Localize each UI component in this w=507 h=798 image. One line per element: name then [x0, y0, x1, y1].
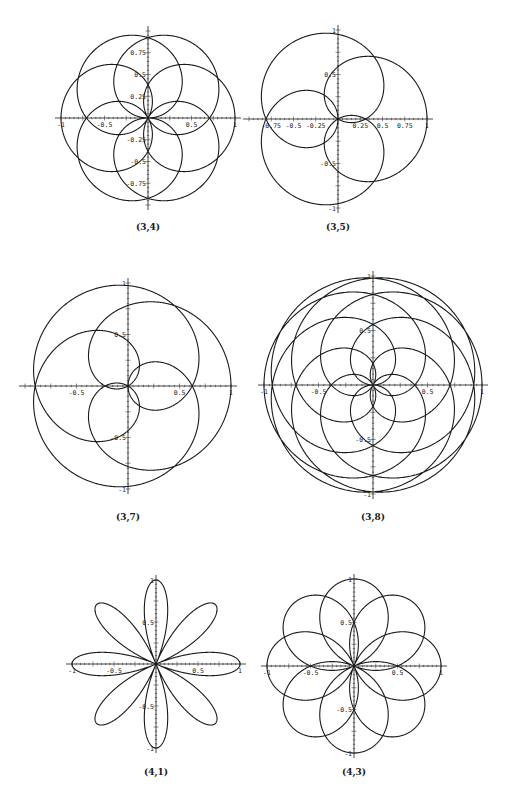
- plot-caption: (4,3): [342, 767, 366, 777]
- y-tick-label: -0.75: [126, 180, 146, 188]
- y-tick-label: -0.5: [130, 158, 146, 166]
- x-tick-label: -0.5: [69, 389, 85, 397]
- y-tick-label: 1: [367, 273, 371, 281]
- y-tick-label: 0.5: [340, 619, 352, 627]
- x-tick-label: -0.5: [303, 669, 319, 677]
- plot-43: -1-0.50.5110.5-0.5-1: [261, 574, 447, 758]
- x-tick-label: 0.25: [352, 122, 368, 130]
- plot-caption: (4,1): [144, 767, 168, 777]
- plot-caption: (3,5): [326, 222, 350, 232]
- x-tick-label: -0.5: [97, 121, 113, 129]
- y-tick-label: -0.5: [138, 703, 154, 711]
- plot-35: -0.75-0.5-0.250.250.50.75110.5-0.5-1: [243, 25, 433, 213]
- plot-caption: (3,4): [136, 222, 160, 232]
- plot-38: -1-0.50.5110.5-0.5-1: [258, 271, 488, 499]
- x-tick-label: -0.25: [306, 122, 326, 130]
- y-tick-label: 0.75: [130, 49, 146, 57]
- x-tick-label: 0.75: [397, 122, 413, 130]
- y-tick-label: -1: [328, 205, 336, 213]
- plot-caption: (3,7): [116, 512, 140, 522]
- y-tick-label: -0.5: [336, 706, 352, 714]
- x-tick-label: -0.5: [286, 122, 302, 130]
- rose-curves-figure: -1-0.50.510.750.50.25-0.25-0.5-0.75-0.75…: [0, 0, 507, 798]
- x-tick-label: -1: [68, 667, 76, 675]
- y-tick-label: 1: [122, 280, 126, 288]
- x-tick-label: 0.5: [392, 669, 404, 677]
- y-tick-label: -1: [146, 745, 154, 753]
- plot-34: -1-0.50.510.750.50.25-0.25-0.5-0.75: [55, 26, 241, 210]
- y-tick-label: 0.5: [142, 619, 154, 627]
- x-tick-label: 0.5: [174, 389, 186, 397]
- plot-caption: (3,8): [361, 512, 385, 522]
- x-tick-label: 0.5: [377, 122, 389, 130]
- x-tick-label: -0.5: [311, 388, 327, 396]
- x-tick-label: 0.5: [422, 388, 434, 396]
- plot-41: -1-0.50.5110.5-0.5-1: [66, 575, 246, 753]
- y-tick-label: -0.25: [126, 136, 146, 144]
- plot-37: -0.50.5110.5-0.5-1: [19, 278, 237, 494]
- x-tick-label: 0.5: [192, 667, 204, 675]
- y-tick-label: -0.5: [110, 434, 126, 442]
- x-tick-label: 0.5: [186, 121, 198, 129]
- y-tick-label: -1: [344, 750, 352, 758]
